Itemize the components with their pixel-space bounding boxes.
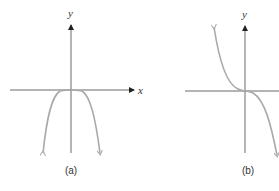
y-axis-label: y [67, 7, 73, 19]
y-axis-label: y [241, 8, 247, 20]
panel-caption: (a) [65, 165, 77, 176]
panel-b: y (b) [185, 8, 279, 176]
polynomial-end-behavior-figure: x y (a) y (b) [0, 0, 279, 191]
panel-caption: (b) [242, 165, 254, 176]
panel-a: x y (a) [10, 7, 143, 176]
x-axis-label: x [137, 84, 143, 96]
figure-canvas: x y (a) y (b) [0, 0, 279, 191]
